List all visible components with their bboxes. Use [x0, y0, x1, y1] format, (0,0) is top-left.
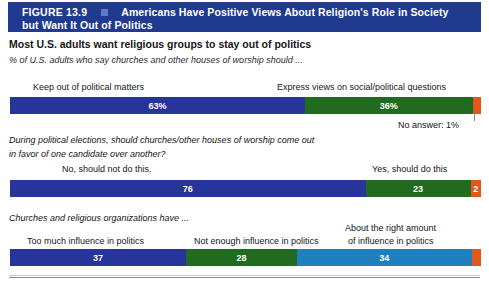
bottom-divider: [9, 277, 480, 278]
figure-header-line-1: FIGURE 13.9 Americans Have Positive View…: [22, 6, 473, 18]
panel1-label-keep-out: Keep out of political matters: [33, 82, 144, 92]
panel3-label-right-amount-line-1: About the right amount: [345, 223, 436, 233]
panel2-question-line-1: During political elections, should churc…: [9, 135, 314, 145]
panel3-label-not-enough: Not enough influence in politics: [194, 236, 319, 246]
chart-subhead: Most U.S. adults want religious groups t…: [9, 38, 311, 50]
figure-title-line-1: Americans Have Positive Views About Reli…: [121, 6, 448, 18]
figure-container: FIGURE 13.9 Americans Have Positive View…: [0, 0, 489, 287]
square-marker-icon: [101, 9, 108, 16]
panel3-stacked-bar: 37 28 34: [10, 249, 481, 266]
panel3-segment-not-enough: 28: [186, 249, 297, 266]
panel2-question-line-2: in favor of one candidate over another?: [9, 149, 166, 159]
panel1-no-answer-leader-line: [474, 114, 475, 121]
panel1-segment-no-answer: [473, 97, 481, 114]
panel2-segment-yes: 23: [366, 180, 471, 197]
panel1-stacked-bar: 63% 36%: [10, 97, 481, 114]
panel2-label-no: No, should not do this.: [62, 164, 152, 174]
panel3-label-right-amount-line-2: of influence in politics: [348, 236, 434, 246]
panel1-no-answer-annotation: No answer: 1%: [398, 120, 459, 130]
panel3-segment-too-much: 37: [10, 249, 186, 266]
panel1-segment-keep-out: 63%: [10, 97, 305, 114]
panel3-segment-no-answer: [472, 249, 481, 266]
panel3-question: Churches and religious organizations hav…: [9, 213, 189, 223]
bottom-divider-light: [9, 275, 480, 276]
panel2-segment-no: 76: [10, 180, 366, 197]
panel2-stacked-bar: 76 23 2: [10, 180, 481, 197]
panel2-segment-no-answer: 2: [471, 180, 481, 197]
panel3-label-too-much: Too much influence in politics: [27, 236, 144, 246]
figure-title-line-2: but Want It Out of Politics: [22, 19, 473, 31]
figure-number: FIGURE 13.9: [22, 6, 87, 18]
panel2-label-yes: Yes, should do this: [372, 164, 447, 174]
figure-header-banner: FIGURE 13.9 Americans Have Positive View…: [8, 2, 481, 32]
panel1-label-express-views: Express views on social/political questi…: [277, 82, 446, 92]
panel3-segment-right-amount: 34: [297, 249, 472, 266]
chart-basis-note: % of U.S. adults who say churches and ot…: [9, 55, 303, 65]
panel1-segment-express-views: 36%: [305, 97, 473, 114]
